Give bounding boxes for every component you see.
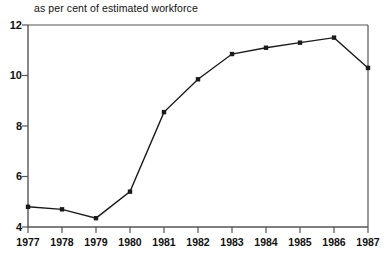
data-point-1983 <box>230 52 234 56</box>
y-tick-label-8: 8 <box>2 120 22 132</box>
data-point-1984 <box>264 46 268 50</box>
chart-axes <box>28 25 368 227</box>
x-tick-label-1986: 1986 <box>317 236 351 248</box>
data-point-1986 <box>332 35 336 39</box>
data-point-1987 <box>366 66 370 70</box>
data-point-1981 <box>162 110 166 114</box>
x-tick-label-1985: 1985 <box>283 236 317 248</box>
data-point-1982 <box>196 77 200 81</box>
x-tick-label-1982: 1982 <box>181 236 215 248</box>
y-tick-label-12: 12 <box>2 19 22 31</box>
data-point-1978 <box>60 207 64 211</box>
y-tick-label-6: 6 <box>2 170 22 182</box>
x-tick-label-1987: 1987 <box>351 236 385 248</box>
x-tick-label-1979: 1979 <box>79 236 113 248</box>
line-chart-plot <box>0 0 389 260</box>
x-tick-label-1984: 1984 <box>249 236 283 248</box>
x-tick-label-1981: 1981 <box>147 236 181 248</box>
x-tick-label-1980: 1980 <box>113 236 147 248</box>
data-point-1980 <box>128 189 132 193</box>
x-tick-label-1977: 1977 <box>11 236 45 248</box>
data-series-line <box>28 38 368 219</box>
data-point-1979 <box>94 216 98 220</box>
y-axis-ticks <box>22 25 28 227</box>
y-tick-label-10: 10 <box>2 69 22 81</box>
chart-container: as per cent of estimated workforce <box>0 0 389 260</box>
x-tick-label-1983: 1983 <box>215 236 249 248</box>
y-tick-label-4: 4 <box>2 221 22 233</box>
data-point-1985 <box>298 40 302 44</box>
data-point-1977 <box>26 205 30 209</box>
x-axis-ticks <box>28 227 368 233</box>
data-point-markers <box>26 35 370 220</box>
x-tick-label-1978: 1978 <box>45 236 79 248</box>
